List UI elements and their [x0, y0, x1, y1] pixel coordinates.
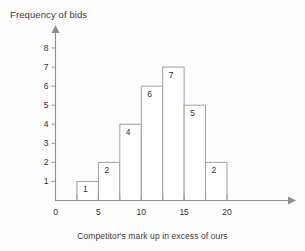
bar-value-label: 6	[147, 89, 152, 99]
bar-value-label: 4	[126, 127, 131, 137]
bar-10-12.5[interactable]	[141, 86, 162, 200]
histogram-chart: Frequency of bids 1246752 12345678051015…	[0, 0, 305, 251]
bar-value-label: 7	[169, 70, 174, 80]
bar-value-label: 5	[190, 108, 195, 118]
x-tick-label: 20	[222, 207, 232, 217]
y-tick-label: 6	[44, 81, 49, 91]
x-axis-title: Competitor's mark up in excess of ours	[0, 231, 305, 241]
bar-15-17.5[interactable]	[184, 105, 205, 200]
y-tick-label: 4	[44, 119, 49, 129]
bar-value-label: 1	[83, 184, 88, 194]
bar-value-label: 2	[212, 165, 217, 175]
y-tick-label: 7	[44, 62, 49, 72]
bars-group: 1246752	[77, 67, 227, 200]
x-tick-label: 10	[137, 207, 147, 217]
y-tick-label: 8	[44, 43, 49, 53]
x-tick-label: 5	[96, 207, 101, 217]
bar-value-label: 2	[104, 165, 109, 175]
y-tick-label: 2	[44, 157, 49, 167]
y-tick-label: 1	[44, 176, 49, 186]
y-tick-label: 3	[44, 138, 49, 148]
plot-area: 1246752 1234567805101520	[0, 0, 305, 251]
x-axis-arrowhead	[288, 197, 296, 205]
y-axis-arrowhead	[52, 25, 60, 33]
x-tick-label: 0	[53, 207, 58, 217]
y-tick-label: 5	[44, 100, 49, 110]
bar-12.5-15[interactable]	[163, 67, 184, 200]
x-tick-label: 15	[179, 207, 189, 217]
